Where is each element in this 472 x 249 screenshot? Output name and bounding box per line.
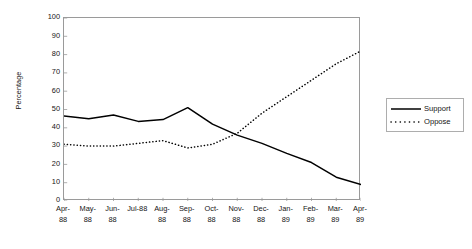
legend-swatch-solid-icon: [390, 104, 422, 114]
y-tick-label: 40: [38, 123, 60, 130]
plot-area: [63, 17, 360, 200]
line-chart: Percentage 0102030405060708090100 Apr-88…: [0, 0, 472, 249]
y-tick-label: 60: [38, 87, 60, 94]
y-axis-title: Percentage: [14, 51, 23, 131]
plot-series-svg: [64, 18, 361, 201]
y-tick-label: 80: [38, 50, 60, 57]
legend-swatch-dotted-icon: [390, 117, 422, 127]
legend-label: Oppose: [422, 117, 451, 126]
y-tick-label: 20: [38, 160, 60, 167]
y-tick-label: 90: [38, 32, 60, 39]
series-line-oppose: [64, 51, 361, 148]
x-axis-tick-labels: Apr-88May-88Jun-88Jul-88Aug-88Sep-88Oct-…: [63, 204, 360, 248]
y-tick-label: 100: [38, 13, 60, 20]
chart-legend: SupportOppose: [386, 98, 464, 132]
legend-item-oppose[interactable]: Oppose: [390, 115, 460, 128]
legend-item-support[interactable]: Support: [390, 102, 460, 115]
y-tick-label: 30: [38, 141, 60, 148]
legend-label: Support: [422, 104, 451, 113]
y-tick-label: 0: [38, 196, 60, 203]
y-tick-label: 70: [38, 68, 60, 75]
y-tick-label: 10: [38, 178, 60, 185]
x-tick-label: Apr-89: [340, 204, 380, 225]
series-line-support: [64, 108, 361, 185]
y-tick-label: 50: [38, 105, 60, 112]
